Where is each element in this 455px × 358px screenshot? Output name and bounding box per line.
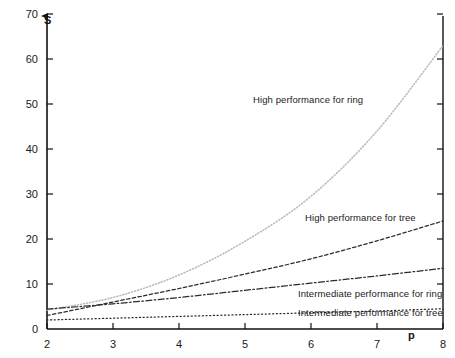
axis-ticks (47, 14, 443, 329)
x-tick-label: 6 (308, 338, 314, 350)
chart-container: 706050403020100 2345678 S p High perform… (0, 0, 455, 358)
x-tick-label: 8 (440, 338, 446, 350)
x-tick-label: 3 (110, 338, 116, 350)
x-axis-title: p (408, 329, 415, 341)
curve-label-3: Intermediate performance for tree (298, 307, 443, 318)
y-tick-label: 70 (26, 8, 38, 20)
y-tick-label: 50 (26, 98, 38, 110)
series-curve-0 (47, 46, 443, 311)
axes (47, 16, 443, 329)
x-tick-label: 5 (242, 338, 248, 350)
curve-label-2: Intermediate performance for ring (298, 288, 442, 299)
line-chart-plot: 706050403020100 2345678 S p (0, 0, 455, 358)
x-tick-label: 4 (176, 338, 182, 350)
curve-label-1: High performance for tree (305, 212, 416, 223)
curve-label-0: High performance for ring (253, 94, 363, 105)
y-tick-label: 20 (26, 233, 38, 245)
y-tick-label: 0 (32, 323, 38, 335)
y-axis-title: S (44, 14, 51, 26)
y-tick-label: 60 (26, 53, 38, 65)
x-tick-label: 2 (44, 338, 50, 350)
y-axis-tick-labels: 706050403020100 (26, 8, 38, 335)
y-tick-label: 30 (26, 188, 38, 200)
series-curve-1 (47, 221, 443, 316)
x-axis-tick-labels: 2345678 (44, 338, 446, 350)
data-series-curves (47, 46, 443, 321)
y-tick-label: 10 (26, 278, 38, 290)
x-tick-label: 7 (374, 338, 380, 350)
y-tick-label: 40 (26, 143, 38, 155)
